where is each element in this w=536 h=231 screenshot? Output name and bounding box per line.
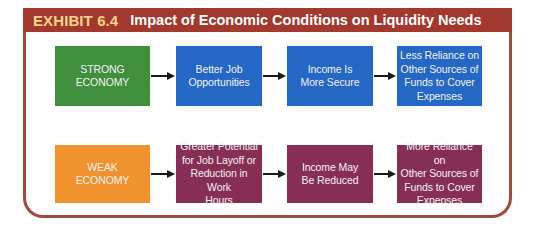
arrow-right-icon xyxy=(374,75,394,77)
exhibit-header: EXHIBIT 6.4 Impact of Economic Condition… xyxy=(23,8,512,32)
box-line: Income May xyxy=(302,161,359,175)
arrow-right-icon xyxy=(151,75,173,77)
better-job-opportunities-box: Better Job Opportunities xyxy=(176,46,262,106)
job-layoff-potential-box: Greater Potential for Job Layoff or Redu… xyxy=(176,145,262,203)
box-line: Income Is xyxy=(300,63,359,77)
box-line: Expenses xyxy=(400,90,479,104)
arrow-right-icon xyxy=(374,173,394,175)
less-reliance-box: Less Reliance on Other Sources of Funds … xyxy=(397,46,482,106)
box-line: Reduction in Work xyxy=(179,167,259,194)
box-line: Other Sources of xyxy=(400,63,479,77)
box-line: Funds to Cover xyxy=(400,76,479,90)
box-line: STRONG xyxy=(76,63,130,77)
box-line: Opportunities xyxy=(188,76,249,90)
arrow-right-icon xyxy=(263,173,284,175)
box-line: More Secure xyxy=(300,76,359,90)
income-more-secure-box: Income Is More Secure xyxy=(287,46,373,106)
box-line: Other Sources of xyxy=(400,167,479,181)
arrow-right-icon xyxy=(263,75,284,77)
box-line: Better Job xyxy=(188,63,249,77)
arrow-right-icon xyxy=(151,173,173,175)
box-line: for Job Layoff or xyxy=(179,154,259,168)
box-line: Be Reduced xyxy=(302,174,359,188)
strong-economy-box: STRONG ECONOMY xyxy=(55,46,150,106)
more-reliance-box: More Reliance on Other Sources of Funds … xyxy=(397,145,482,203)
box-line: Expenses xyxy=(400,194,479,208)
box-line: More Reliance on xyxy=(400,140,479,167)
box-line: Funds to Cover xyxy=(400,181,479,195)
box-line: Less Reliance on xyxy=(400,49,479,63)
exhibit-title: Impact of Economic Conditions on Liquidi… xyxy=(130,12,481,28)
box-line: ECONOMY xyxy=(76,76,130,90)
exhibit-label: EXHIBIT 6.4 xyxy=(33,12,118,29)
box-line: Greater Potential xyxy=(179,140,259,154)
box-line: WEAK xyxy=(76,161,130,175)
weak-economy-box: WEAK ECONOMY xyxy=(55,145,150,203)
box-line: Hours xyxy=(179,194,259,208)
box-line: ECONOMY xyxy=(76,174,130,188)
income-reduced-box: Income May Be Reduced xyxy=(287,145,373,203)
